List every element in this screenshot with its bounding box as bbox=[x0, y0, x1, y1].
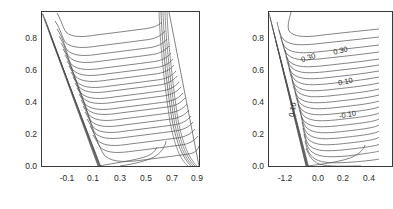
right-ytick-3: 0.6 bbox=[242, 65, 264, 75]
right-contour-label-2: 0.10 bbox=[337, 76, 353, 88]
right-xtick-1: 0.0 bbox=[312, 173, 324, 183]
right-ytick-2: 0.4 bbox=[242, 97, 264, 107]
left-contour-panel: 0.0 0.2 0.4 0.6 0.8 -0.1 0.1 0.3 0.5 0.7… bbox=[0, 0, 205, 209]
left-ytick-2: 0.4 bbox=[15, 97, 37, 107]
right-xtick-2: 0.2 bbox=[337, 173, 349, 183]
left-xtick-2: 0.3 bbox=[114, 173, 126, 183]
right-xtick-3: 0.4 bbox=[363, 173, 375, 183]
left-ytick-0: 0.0 bbox=[15, 161, 37, 171]
left-xtick-4: 0.7 bbox=[166, 173, 178, 183]
left-ytick-1: 0.2 bbox=[15, 129, 37, 139]
right-ytick-1: 0.2 bbox=[242, 129, 264, 139]
left-xtick-5: 0.9 bbox=[191, 173, 203, 183]
left-xtick-0: -0.1 bbox=[60, 173, 75, 183]
left-ytick-4: 0.8 bbox=[15, 33, 37, 43]
right-contour-label-1: 0.30 bbox=[332, 44, 348, 56]
right-contour-label-4: -0.10 bbox=[338, 108, 357, 120]
left-xtick-3: 0.5 bbox=[140, 173, 152, 183]
right-ytick-0: 0.0 bbox=[242, 161, 264, 171]
left-xtick-1: 0.1 bbox=[87, 173, 99, 183]
right-contour-label-3: 0.10 bbox=[287, 102, 298, 118]
right-xtick-0: -1.2 bbox=[278, 173, 293, 183]
right-contour-panel: 0.30 0.30 0.10 0.10 -0.10 0.0 0.2 0.4 0.… bbox=[205, 0, 379, 209]
right-ytick-4: 0.8 bbox=[242, 33, 264, 43]
left-ytick-3: 0.6 bbox=[15, 65, 37, 75]
